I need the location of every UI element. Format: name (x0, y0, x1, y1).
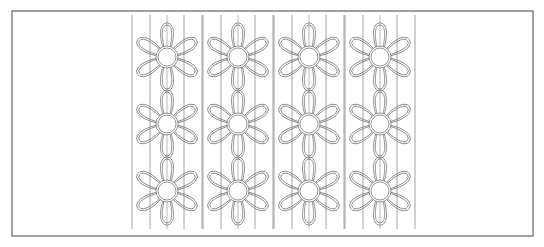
flower-center-circle (156, 180, 178, 202)
flower-center-circle (298, 180, 320, 202)
flower-pattern-canvas (0, 0, 544, 247)
flower-center-circle (156, 46, 178, 68)
flower-center-circle (298, 113, 320, 135)
flower-center-circle (369, 180, 391, 202)
flower-center-circle (369, 46, 391, 68)
flowers-grid (134, 23, 413, 225)
frame-border (12, 11, 533, 236)
flower-center-circle (369, 113, 391, 135)
flower-center-circle (227, 113, 249, 135)
flower-center-circle (156, 113, 178, 135)
flower-center-circle (227, 180, 249, 202)
flower-center-circle (227, 46, 249, 68)
flower-center-circle (298, 46, 320, 68)
